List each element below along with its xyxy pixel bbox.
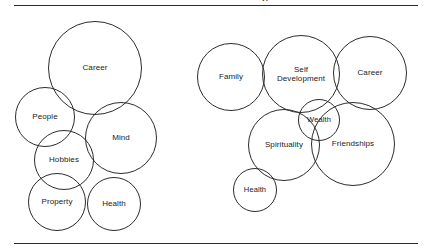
bottom-divider <box>14 243 418 244</box>
bubble-label: Family <box>219 72 243 82</box>
bubble-family[interactable]: Family <box>197 43 265 111</box>
bubble-label: Self Development <box>277 65 325 84</box>
right-cluster: FamilySelf DevelopmentCareerWealthFriend… <box>0 6 431 242</box>
bubble-label: Friendships <box>332 139 374 149</box>
bubble-label: Spirituality <box>265 140 303 150</box>
bubble-health[interactable]: Health <box>233 168 277 212</box>
bubble-diagram: CareerPeopleMindHobbiesPropertyHealthFam… <box>0 6 431 242</box>
page-root: p CareerPeopleMindHobbiesPropertyHealthF… <box>0 0 431 251</box>
title-fragment-text: p <box>262 0 292 1</box>
bubble-career[interactable]: Career <box>333 36 407 110</box>
bubble-friendships[interactable]: Friendships <box>311 102 395 186</box>
bubble-label: Career <box>357 68 382 78</box>
bubble-label: Health <box>244 185 266 195</box>
